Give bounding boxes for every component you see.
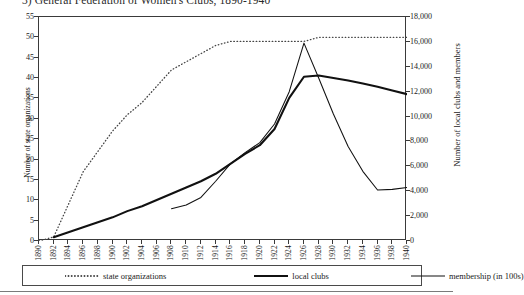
right-tick-label: 0 — [410, 236, 444, 245]
x-tick-label: 1904 — [137, 245, 146, 261]
left-tick-label: 0 — [12, 236, 34, 245]
x-tick-mark — [185, 240, 186, 244]
x-tick-label: 1918 — [240, 245, 249, 261]
legend-swatch-icon — [411, 272, 445, 280]
left-tick-label: 25 — [12, 134, 34, 143]
legend-item-label: local clubs — [292, 271, 329, 281]
right-axis-tick-labels: 02,0004,0006,0008,00010,00012,00014,0001… — [410, 16, 446, 240]
left-tick-label: 35 — [12, 93, 34, 102]
x-tick-mark — [112, 240, 113, 244]
x-tick-mark — [170, 240, 171, 244]
x-axis-tick-labels: 1890189218941896189819001902190419061908… — [38, 245, 406, 267]
plot-lines — [39, 17, 407, 241]
x-tick-label: 1936 — [372, 245, 381, 261]
x-tick-mark — [274, 240, 275, 244]
right-tick-label: 16,000 — [410, 36, 444, 45]
left-tick-label: 10 — [12, 195, 34, 204]
right-axis-title: Number of local clubs and members — [452, 30, 462, 180]
chart-legend: state organizationslocal clubsmembership… — [22, 265, 422, 286]
x-tick-label: 1912 — [195, 245, 204, 261]
right-tick-label: 6,000 — [410, 161, 444, 170]
x-tick-mark — [97, 240, 98, 244]
x-tick-mark — [200, 240, 201, 244]
right-tick-label: 12,000 — [410, 86, 444, 95]
x-tick-label: 1910 — [181, 245, 190, 261]
right-tick-label: 2,000 — [410, 211, 444, 220]
right-tick-label: 10,000 — [410, 111, 444, 120]
legend-item-state-organizations[interactable]: state organizations — [65, 271, 166, 281]
x-tick-mark — [347, 240, 348, 244]
x-tick-label: 1898 — [92, 245, 101, 261]
x-tick-mark — [229, 240, 230, 244]
x-tick-label: 1932 — [343, 245, 352, 261]
x-tick-label: 1914 — [210, 245, 219, 261]
left-tick-label: 15 — [12, 174, 34, 183]
x-tick-label: 1894 — [63, 245, 72, 261]
x-tick-mark — [362, 240, 363, 244]
x-tick-label: 1902 — [122, 245, 131, 261]
x-tick-mark — [156, 240, 157, 244]
x-tick-mark — [406, 240, 407, 244]
x-tick-label: 1940 — [402, 245, 411, 261]
legend-item-local-clubs[interactable]: local clubs — [254, 271, 329, 281]
left-tick-label: 5 — [12, 215, 34, 224]
left-tick-label: 30 — [12, 113, 34, 122]
series-line-state-organizations — [39, 37, 407, 241]
x-tick-mark — [126, 240, 127, 244]
x-tick-label: 1916 — [225, 245, 234, 261]
legend-item-label: membership (in 100s) — [449, 271, 524, 281]
legend-swatch-icon — [254, 272, 288, 280]
x-tick-label: 1930 — [328, 245, 337, 261]
legend-item-membership-in-100s-[interactable]: membership (in 100s) — [411, 271, 524, 281]
left-tick-label: 55 — [12, 12, 34, 21]
x-tick-mark — [332, 240, 333, 244]
page-bottom-rule — [0, 291, 453, 292]
x-tick-label: 1890 — [34, 245, 43, 261]
x-tick-mark — [244, 240, 245, 244]
left-tick-label: 40 — [12, 73, 34, 82]
x-tick-mark — [82, 240, 83, 244]
x-tick-mark — [53, 240, 54, 244]
x-tick-mark — [303, 240, 304, 244]
x-tick-mark — [377, 240, 378, 244]
x-tick-mark — [288, 240, 289, 244]
x-tick-label: 1896 — [78, 245, 87, 261]
x-tick-label: 1906 — [151, 245, 160, 261]
x-tick-mark — [67, 240, 68, 244]
chart-title: 3) General Federation of Women's Clubs, … — [22, 0, 270, 6]
legend-item-label: state organizations — [103, 271, 166, 281]
x-tick-label: 1908 — [166, 245, 175, 261]
x-axis-tick-marks — [38, 240, 406, 244]
x-tick-label: 1938 — [387, 245, 396, 261]
left-tick-label: 50 — [12, 32, 34, 41]
series-line-membership-in-100s- — [171, 43, 407, 209]
x-tick-mark — [215, 240, 216, 244]
x-tick-label: 1934 — [357, 245, 366, 261]
x-tick-mark — [38, 240, 39, 244]
x-tick-label: 1924 — [284, 245, 293, 261]
plot-area — [38, 16, 406, 240]
right-tick-label: 4,000 — [410, 186, 444, 195]
right-tick-label: 18,000 — [410, 12, 444, 21]
x-tick-label: 1922 — [269, 245, 278, 261]
x-tick-label: 1900 — [107, 245, 116, 261]
x-tick-label: 1928 — [313, 245, 322, 261]
left-axis-tick-labels: 0510152025303540455055 — [8, 16, 34, 240]
x-tick-label: 1892 — [48, 245, 57, 261]
legend-swatch-icon — [65, 272, 99, 280]
left-tick-label: 20 — [12, 154, 34, 163]
left-tick-label: 45 — [12, 52, 34, 61]
right-tick-label: 8,000 — [410, 136, 444, 145]
x-tick-label: 1926 — [298, 245, 307, 261]
x-tick-mark — [318, 240, 319, 244]
x-tick-label: 1920 — [254, 245, 263, 261]
x-tick-mark — [259, 240, 260, 244]
x-tick-mark — [141, 240, 142, 244]
right-tick-label: 14,000 — [410, 61, 444, 70]
x-tick-mark — [391, 240, 392, 244]
